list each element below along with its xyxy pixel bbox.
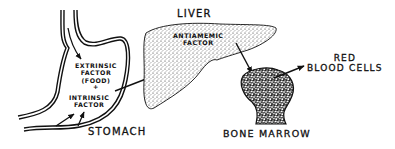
antianemic-factor-label: ANTIAMEMIC FACTOR — [173, 33, 223, 47]
antianemic-line2: FACTOR — [173, 40, 223, 46]
liver-label: LIVER — [177, 9, 212, 19]
stomach-contents-label: EXTRINSIC FACTOR (FOOD) + — [75, 63, 117, 90]
rbc-line2: BLOOD CELLS — [307, 64, 383, 73]
stomach-label: STOMACH — [88, 127, 147, 137]
intrinsic-factor-label: INTRINSIC FACTOR — [69, 95, 109, 109]
intrinsic-line2: FACTOR — [69, 102, 109, 108]
plus-sign: + — [75, 84, 117, 90]
rbc-line1: RED — [307, 54, 383, 63]
diagram-artwork — [0, 0, 395, 149]
diagram-canvas: LIVER ANTIAMEMIC FACTOR EXTRINSIC FACTOR… — [0, 0, 395, 149]
bone-marrow-label: BONE MARROW — [223, 129, 311, 139]
extrinsic-line2: FACTOR — [75, 70, 117, 76]
red-blood-cells-label: RED BLOOD CELLS — [307, 54, 383, 73]
bone-marrow-illustration — [241, 68, 293, 124]
